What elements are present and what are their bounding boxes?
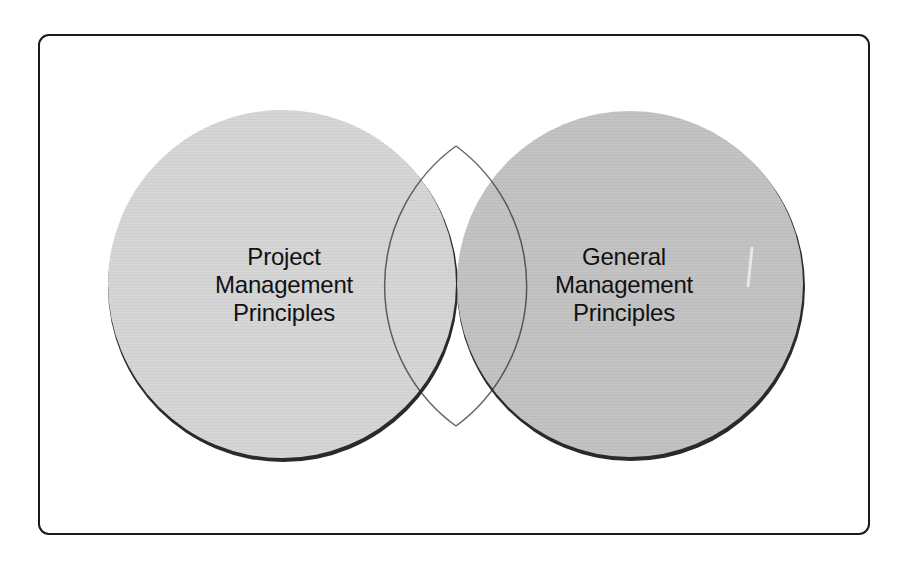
right-label-line-2: Management: [536, 271, 712, 299]
right-label-line-1: General: [536, 243, 712, 271]
left-label-line-2: Management: [196, 271, 372, 299]
left-label-line-1: Project: [196, 243, 372, 271]
left-set-label: Project Management Principles: [196, 243, 372, 327]
left-label-line-3: Principles: [196, 299, 372, 327]
right-set-label: General Management Principles: [536, 243, 712, 327]
venn-diagram: [0, 0, 900, 566]
right-label-line-3: Principles: [536, 299, 712, 327]
